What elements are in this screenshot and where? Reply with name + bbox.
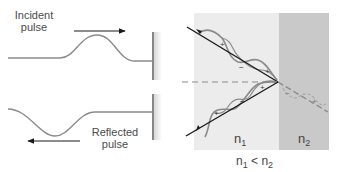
reflected-sign-1: + [214, 109, 219, 118]
reflected-pulse-label: Reflected pulse [86, 126, 144, 150]
index-condition: n1 < n2 [236, 154, 273, 170]
reflected-sign-3: + [260, 83, 265, 92]
reflected-label-line2: pulse [86, 138, 144, 150]
incident-pulse-wave [8, 35, 153, 61]
right-panel: + − + + − + − + [182, 13, 329, 150]
incident-label-line1: Incident [9, 9, 59, 21]
medium-1-label: n1 [234, 131, 246, 148]
reflected-label-line1: Reflected [86, 126, 144, 138]
wall-shadow-bottom [154, 94, 162, 140]
left-panel [8, 31, 162, 141]
incident-sign-2: − [239, 63, 244, 72]
wall-shadow-top [154, 32, 162, 80]
incident-label-line2: pulse [9, 21, 59, 33]
transmitted-sign-2: + [312, 97, 317, 106]
medium-2-label: n2 [298, 131, 310, 148]
incident-pulse-label: Incident pulse [9, 9, 59, 33]
reflected-sign-2: − [240, 97, 245, 106]
incident-sign-1: + [220, 40, 225, 49]
medium-2-region [279, 13, 329, 150]
incident-sign-3: + [265, 67, 270, 76]
transmitted-sign-1: − [285, 89, 290, 98]
